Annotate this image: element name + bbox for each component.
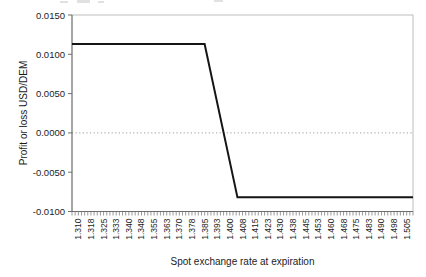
x-tick-label: 1.355 xyxy=(149,218,159,240)
x-tick-label: 1.423 xyxy=(263,218,273,240)
y-tick-label: -0.0100 xyxy=(33,206,65,217)
cropped-text-remnant xyxy=(77,0,90,3)
cropped-text-remnant xyxy=(60,1,68,3)
x-tick-label: 1.385 xyxy=(200,218,210,240)
x-tick-label: 1.340 xyxy=(124,218,134,240)
x-tick-label: 1.430 xyxy=(275,218,285,240)
x-tick-label: 1.490 xyxy=(376,218,386,240)
x-tick-label: 1.408 xyxy=(238,218,248,240)
x-tick-label: 1.318 xyxy=(86,218,96,240)
x-tick-label: 1.460 xyxy=(326,218,336,240)
x-tick-label: 1.445 xyxy=(301,218,311,240)
x-tick-label: 1.438 xyxy=(288,218,298,240)
y-axis-title: Profit or loss USD/DEM xyxy=(17,48,31,178)
x-tick-label: 1.363 xyxy=(162,218,172,240)
cropped-text-remnant xyxy=(98,1,104,3)
cropped-text-remnant xyxy=(214,0,223,2)
y-tick-label: 0.0100 xyxy=(36,49,65,60)
x-tick-label: 1.468 xyxy=(339,218,349,240)
x-tick-label: 1.498 xyxy=(389,218,399,240)
x-tick-label: 1.483 xyxy=(364,218,374,240)
x-tick-label: 1.400 xyxy=(225,218,235,240)
x-tick-label: 1.505 xyxy=(402,218,412,240)
x-tick-label: 1.348 xyxy=(136,218,146,240)
x-tick-label: 1.325 xyxy=(99,218,109,240)
y-tick-label: -0.0050 xyxy=(33,167,65,178)
x-tick-label: 1.310 xyxy=(73,218,83,240)
x-tick-label: 1.453 xyxy=(313,218,323,240)
x-tick-label: 1.415 xyxy=(250,218,260,240)
x-tick-label: 1.370 xyxy=(174,218,184,240)
payoff-chart: 0.01500.01000.00500.0000-0.0050-0.01001.… xyxy=(0,0,426,277)
payoff-line-series xyxy=(72,44,413,197)
x-tick-label: 1.378 xyxy=(187,218,197,240)
chart-plot-area: 0.01500.01000.00500.0000-0.0050-0.01001.… xyxy=(0,0,426,277)
y-tick-label: 0.0150 xyxy=(36,10,65,21)
x-tick-label: 1.333 xyxy=(111,218,121,240)
y-tick-label: 0.0000 xyxy=(36,127,65,138)
y-tick-label: 0.0050 xyxy=(36,88,65,99)
x-tick-label: 1.393 xyxy=(212,218,222,240)
x-tick-label: 1.475 xyxy=(351,218,361,240)
x-axis-title: Spot exchange rate at expiration xyxy=(72,256,413,267)
